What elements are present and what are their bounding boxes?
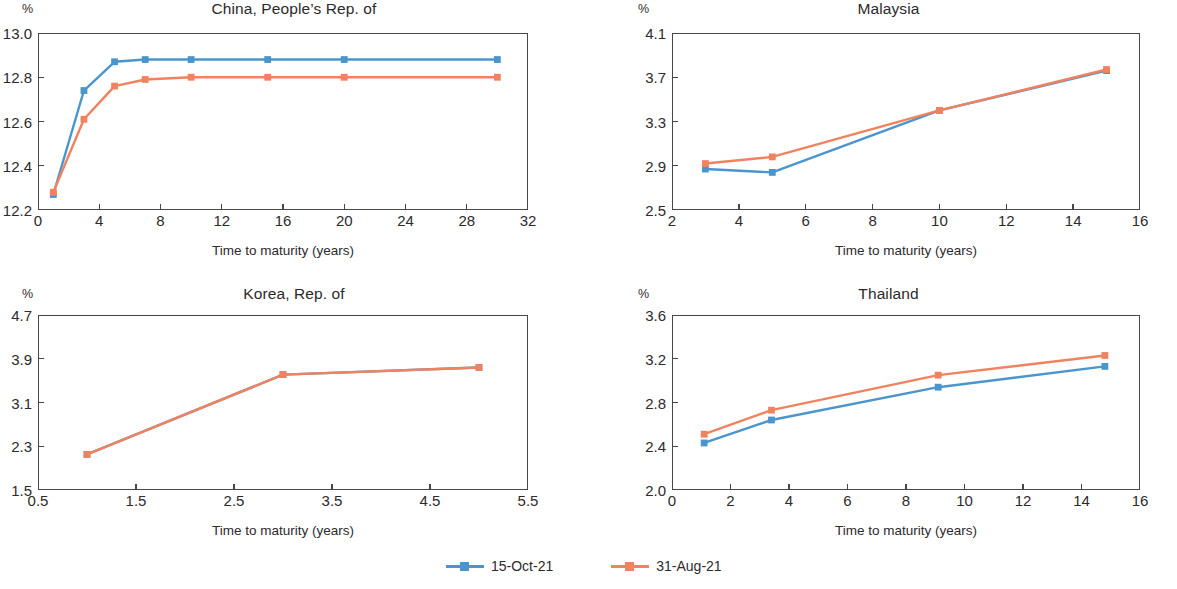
series-layer: [0, 0, 588, 270]
x-tick-mark: [1081, 484, 1082, 490]
x-tick-label: 2: [726, 492, 734, 509]
legend-item-31-aug-21[interactable]: 31-Aug-21: [611, 558, 721, 574]
data-point-marker: [81, 116, 88, 123]
x-tick-mark: [805, 204, 806, 210]
x-tick-label: 24: [397, 212, 414, 229]
x-tick-label: 16: [275, 212, 292, 229]
x-tick-mark: [233, 484, 234, 490]
chart-panel-china: China, People’s Rep. of % Time to maturi…: [0, 0, 588, 270]
series-line: [87, 368, 479, 455]
x-tick-label: 14: [1073, 492, 1090, 509]
x-tick-label: 8: [868, 212, 876, 229]
data-point-marker: [476, 364, 483, 371]
data-point-marker: [935, 372, 942, 379]
x-tick-label: 4: [785, 492, 793, 509]
data-point-marker: [701, 431, 708, 438]
y-tick-label: 2.4: [600, 438, 666, 455]
x-tick-label: 12: [998, 212, 1015, 229]
data-point-marker: [188, 56, 195, 63]
y-tick-label: 3.7: [600, 69, 666, 86]
y-tick-label: 12.8: [0, 69, 32, 86]
x-tick-label: 32: [520, 212, 537, 229]
y-tick-label: 4.7: [0, 307, 32, 324]
x-tick-label: 0: [34, 212, 42, 229]
data-point-marker: [264, 74, 271, 81]
x-tick-label: 1.5: [126, 492, 147, 509]
x-tick-mark: [1022, 484, 1023, 490]
data-point-marker: [702, 160, 709, 167]
data-point-marker: [341, 74, 348, 81]
x-tick-mark: [344, 204, 345, 210]
x-tick-label: 5.5: [518, 492, 539, 509]
x-tick-mark: [429, 484, 430, 490]
x-tick-label: 2: [668, 212, 676, 229]
x-tick-label: 14: [1065, 212, 1082, 229]
series-layer: [600, 285, 1177, 555]
x-tick-label: 10: [931, 212, 948, 229]
data-point-marker: [142, 76, 149, 83]
x-tick-mark: [905, 484, 906, 490]
data-point-marker: [341, 56, 348, 63]
data-point-marker: [50, 189, 57, 196]
y-tick-label: 12.2: [0, 202, 32, 219]
chart-panel-malaysia: Malaysia % Time to maturity (years) 2.52…: [600, 0, 1177, 270]
x-tick-mark: [872, 204, 873, 210]
chart-panel-korea: Korea, Rep. of % Time to maturity (years…: [0, 285, 588, 555]
data-point-marker: [494, 56, 501, 63]
x-tick-label: 12: [213, 212, 230, 229]
x-tick-mark: [964, 484, 965, 490]
y-tick-label: 2.5: [600, 202, 666, 219]
x-tick-label: 8: [902, 492, 910, 509]
x-tick-mark: [730, 484, 731, 490]
x-tick-label: 6: [802, 212, 810, 229]
series-31-Aug-21: [50, 74, 501, 196]
legend-label: 15-Oct-21: [491, 558, 553, 574]
series-line: [87, 368, 479, 455]
data-point-marker: [111, 58, 118, 65]
data-point-marker: [142, 56, 149, 63]
y-tick-mark: [38, 165, 44, 166]
x-tick-mark: [1006, 204, 1007, 210]
x-axis-title: Time to maturity (years): [672, 523, 1140, 538]
x-tick-mark: [405, 204, 406, 210]
data-point-marker: [936, 107, 943, 114]
x-tick-mark: [1072, 204, 1073, 210]
y-tick-mark: [672, 77, 678, 78]
x-tick-mark: [99, 204, 100, 210]
x-tick-mark: [738, 204, 739, 210]
y-tick-mark: [672, 165, 678, 166]
x-axis-title: Time to maturity (years): [672, 243, 1140, 258]
y-tick-label: 3.9: [0, 350, 32, 367]
x-tick-label: 6: [843, 492, 851, 509]
x-tick-label: 28: [458, 212, 475, 229]
data-point-marker: [111, 83, 118, 90]
x-tick-mark: [160, 204, 161, 210]
data-point-marker: [1103, 66, 1110, 73]
x-tick-label: 10: [956, 492, 973, 509]
x-tick-label: 12: [1015, 492, 1032, 509]
series-line: [53, 77, 497, 192]
x-tick-mark: [847, 484, 848, 490]
series-line: [705, 70, 1106, 164]
x-tick-label: 0.5: [28, 492, 49, 509]
x-tick-label: 3.5: [322, 492, 343, 509]
data-point-marker: [769, 154, 776, 161]
y-tick-label: 3.1: [0, 394, 32, 411]
x-tick-label: 4: [95, 212, 103, 229]
y-tick-mark: [672, 121, 678, 122]
data-point-marker: [81, 87, 88, 94]
y-tick-mark: [672, 402, 678, 403]
legend-item-15-oct-21[interactable]: 15-Oct-21: [446, 558, 553, 574]
x-tick-label: 8: [156, 212, 164, 229]
x-tick-mark: [282, 204, 283, 210]
y-tick-mark: [38, 446, 44, 447]
data-point-marker: [768, 407, 775, 414]
series-15-Oct-21: [701, 363, 1109, 446]
y-tick-label: 4.1: [600, 25, 666, 42]
y-tick-label: 3.3: [600, 113, 666, 130]
data-point-marker: [701, 440, 708, 447]
series-line: [704, 366, 1105, 443]
chart-panel-thailand: Thailand % Time to maturity (years) 2.02…: [600, 285, 1177, 555]
series-31-Aug-21: [84, 364, 483, 458]
legend-line-marker-icon: [446, 559, 484, 573]
